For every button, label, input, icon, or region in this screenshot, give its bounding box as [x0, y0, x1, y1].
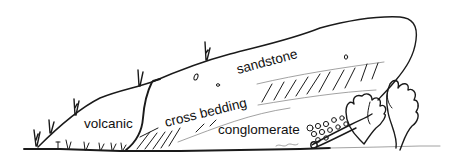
left-hand [346, 94, 386, 144]
ground-squiggle [276, 144, 298, 146]
ground-line [24, 148, 330, 151]
left-hand-finger [368, 102, 370, 124]
ground-line-right [330, 146, 440, 148]
label-conglomerate: conglomerate [218, 122, 300, 137]
label-volcanic: volcanic [84, 116, 133, 131]
pebble [216, 84, 219, 87]
pebble [344, 55, 347, 59]
geology-sketch: volcanic cross bedding sandstone conglom… [0, 0, 456, 163]
contact-blob [153, 79, 160, 81]
pebble [193, 73, 199, 80]
right-hand [387, 81, 418, 150]
sketch-drawing: volcanic cross bedding sandstone conglom… [0, 0, 456, 163]
